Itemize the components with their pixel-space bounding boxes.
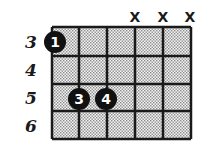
fret-label-6: 6 <box>25 116 37 136</box>
finger-number-4: 4 <box>101 91 111 107</box>
fret-label-5: 5 <box>25 88 37 108</box>
finger-dot-4: 4 <box>95 88 117 110</box>
finger-number-3: 3 <box>74 91 84 107</box>
chord-diagram-svg: X X X 3 4 5 6 1 3 4 <box>0 0 208 155</box>
finger-dot-1: 1 <box>44 31 66 53</box>
mute-marker-string-6: X <box>185 9 196 25</box>
mute-marker-string-4: X <box>130 9 141 25</box>
finger-dot-3: 3 <box>68 88 90 110</box>
fret-label-3: 3 <box>25 32 37 52</box>
finger-number-1: 1 <box>50 34 60 50</box>
chord-diagram: X X X 3 4 5 6 1 3 4 <box>0 0 208 155</box>
fret-label-4: 4 <box>25 60 37 80</box>
mute-marker-string-5: X <box>158 9 169 25</box>
